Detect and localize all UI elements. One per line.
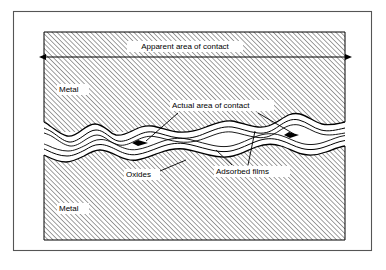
metal-top-label: Metal [59, 85, 79, 94]
metal-bottom-label: Metal [59, 204, 79, 213]
oxides-label: Oxides [126, 170, 151, 179]
actual-area-label: Actual area of contact [172, 101, 250, 110]
adsorbed-films-label: Adsorbed films [216, 167, 269, 176]
diagram-canvas: Apparent area of contact Metal Actual ar… [0, 0, 386, 270]
lower-metal-body [40, 142, 352, 244]
apparent-area-label: Apparent area of contact [141, 42, 229, 51]
contact-diagram-figure: Apparent area of contact Metal Actual ar… [0, 0, 386, 270]
